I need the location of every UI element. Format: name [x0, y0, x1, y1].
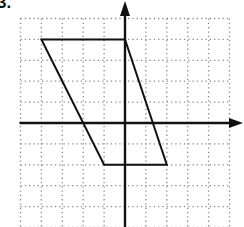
axes: [20, 1, 244, 227]
y-axis-arrow-icon: [120, 1, 130, 16]
coordinate-plane: [0, 0, 243, 227]
x-axis-arrow-icon: [229, 118, 243, 128]
